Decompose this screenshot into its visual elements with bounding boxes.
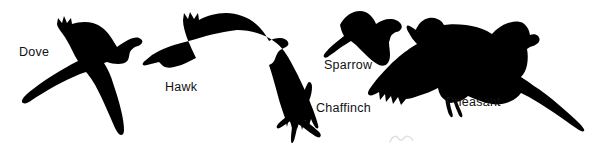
- bird-silhouette-figure: Dove Hawk Sparrow Chaffinch Pheasant: [0, 0, 601, 152]
- silhouette-layer: [0, 0, 601, 152]
- bird-label-chaffinch: Chaffinch: [316, 102, 371, 115]
- hawk-silhouette: [143, 12, 319, 130]
- bird-label-sparrow: Sparrow: [324, 59, 372, 72]
- bird-label-pheasant: Pheasant: [446, 96, 501, 109]
- faint-scribble-mark: [388, 132, 416, 146]
- bird-label-hawk: Hawk: [165, 81, 197, 94]
- dove-silhouette: [22, 16, 142, 135]
- bird-label-dove: Dove: [19, 46, 49, 59]
- pheasant-silhouette: [368, 18, 584, 132]
